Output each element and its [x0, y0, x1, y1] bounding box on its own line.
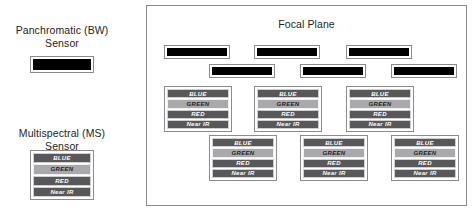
fp-ms-band-green: GREEN — [394, 148, 456, 157]
fp-ms-band-near-ir: Near IR — [349, 120, 411, 129]
panchromatic-bar — [303, 67, 363, 75]
focal-plane-panchromatic-detector — [391, 64, 457, 78]
focal-plane-panchromatic-detector — [254, 45, 320, 59]
fp-ms-band-green: GREEN — [303, 148, 365, 157]
fp-ms-band-blue: BLUE — [257, 89, 319, 98]
focal-plane-multispectral-detector: BLUEGREENREDNear IR — [254, 86, 322, 132]
panchromatic-bar — [167, 48, 227, 56]
panchromatic-bar — [33, 59, 91, 70]
panchromatic-bar — [257, 48, 317, 56]
legend-ms-band-near-ir: Near IR — [33, 187, 91, 197]
focal-plane-panchromatic-detector — [346, 45, 412, 59]
focal-plane-panchromatic-detector — [209, 64, 275, 78]
fp-ms-band-red: RED — [349, 110, 411, 119]
legend-ms-band-red: RED — [33, 176, 91, 186]
legend-ms-band-blue: BLUE — [33, 153, 91, 163]
fp-ms-band-red: RED — [167, 110, 229, 119]
focal-plane-title: Focal Plane — [147, 18, 466, 30]
focal-plane-multispectral-detector: BLUEGREENREDNear IR — [164, 86, 232, 132]
focal-plane-panchromatic-detector — [300, 64, 366, 78]
fp-ms-band-near-ir: Near IR — [303, 169, 365, 178]
multispectral-sensor-detector: BLUEGREENREDNear IR — [30, 150, 94, 200]
fp-ms-band-green: GREEN — [212, 148, 274, 157]
fp-ms-band-green: GREEN — [167, 99, 229, 108]
fp-ms-band-blue: BLUE — [167, 89, 229, 98]
panchromatic-bar — [394, 67, 454, 75]
fp-ms-band-near-ir: Near IR — [167, 120, 229, 129]
fp-ms-band-blue: BLUE — [303, 138, 365, 147]
panchromatic-sensor-detector — [30, 56, 94, 73]
fp-ms-band-blue: BLUE — [394, 138, 456, 147]
panchromatic-bar — [212, 67, 272, 75]
fp-ms-band-red: RED — [303, 159, 365, 168]
focal-plane-multispectral-detector: BLUEGREENREDNear IR — [300, 135, 368, 181]
fp-ms-band-blue: BLUE — [349, 89, 411, 98]
fp-ms-band-near-ir: Near IR — [394, 169, 456, 178]
panchromatic-sensor-label: Panchromatic (BW) Sensor — [0, 24, 124, 50]
fp-ms-band-blue: BLUE — [212, 138, 274, 147]
fp-ms-band-red: RED — [394, 159, 456, 168]
panchromatic-bar — [349, 48, 409, 56]
focal-plane-multispectral-detector: BLUEGREENREDNear IR — [209, 135, 277, 181]
focal-plane-panel: Focal Plane BLUEGREENREDNear IRBLUEGREEN… — [146, 5, 467, 206]
legend-ms-band-green: GREEN — [33, 164, 91, 174]
focal-plane-multispectral-detector: BLUEGREENREDNear IR — [346, 86, 414, 132]
fp-ms-band-green: GREEN — [349, 99, 411, 108]
fp-ms-band-red: RED — [212, 159, 274, 168]
focal-plane-multispectral-detector: BLUEGREENREDNear IR — [391, 135, 459, 181]
focal-plane-panchromatic-detector — [164, 45, 230, 59]
fp-ms-band-green: GREEN — [257, 99, 319, 108]
fp-ms-band-red: RED — [257, 110, 319, 119]
fp-ms-band-near-ir: Near IR — [257, 120, 319, 129]
fp-ms-band-near-ir: Near IR — [212, 169, 274, 178]
